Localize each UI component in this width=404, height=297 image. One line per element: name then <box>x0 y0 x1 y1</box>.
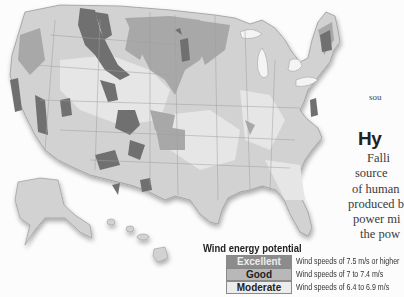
legend-desc-excellent: Wind speeds of 7.5 m/s or higher <box>296 256 399 266</box>
text-fragment-top: sou <box>369 92 382 102</box>
legend-title: Wind energy potential <box>203 242 302 254</box>
legend-desc-good: Wind speeds of 7 to 7.4 m/s <box>296 269 383 279</box>
legend-item-excellent: Excellent <box>226 255 292 268</box>
legend-item-good: Good <box>226 268 292 281</box>
paragraph-line: the pow <box>360 227 400 243</box>
hawaii <box>107 219 168 262</box>
paragraph-line: power mi <box>353 212 401 228</box>
section-heading: Hy <box>358 128 381 150</box>
legend-item-moderate: Moderate <box>226 281 292 294</box>
legend-swatch-good: Good <box>226 268 292 281</box>
alaska <box>15 178 92 245</box>
legend-desc-moderate: Wind speeds of 6.4 to 6.9 m/s <box>296 282 389 292</box>
paragraph-line: Falli <box>367 151 390 167</box>
paragraph-line: source <box>355 166 388 182</box>
legend-swatch-moderate: Moderate <box>226 281 292 294</box>
paragraph-line: of human <box>352 182 400 198</box>
legend-swatch-excellent: Excellent <box>226 255 292 268</box>
paragraph-line: produced b <box>348 197 404 213</box>
